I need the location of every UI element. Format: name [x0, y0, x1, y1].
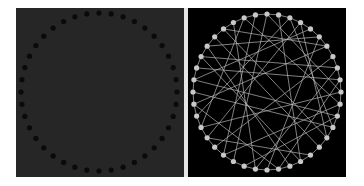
graph-node — [171, 114, 176, 119]
graph-node — [132, 19, 137, 24]
graph-node — [41, 145, 46, 150]
graph-node — [298, 159, 303, 164]
graph-node — [27, 54, 32, 59]
graph-node — [287, 164, 292, 169]
graph-node — [264, 11, 269, 16]
graph-node — [51, 25, 56, 30]
graph-node — [166, 54, 171, 59]
graph-node — [308, 26, 313, 31]
graph-node — [337, 102, 342, 107]
graph-node — [205, 135, 210, 140]
chord-edge — [255, 68, 337, 169]
left-circular-graph — [16, 8, 184, 177]
graph-node — [72, 165, 77, 170]
graph-node — [191, 102, 196, 107]
graph-node — [276, 12, 281, 17]
graph-node — [221, 26, 226, 31]
graph-node — [205, 44, 210, 49]
graph-node — [160, 43, 165, 48]
graph-node — [330, 125, 335, 130]
graph-node — [335, 65, 340, 70]
graph-node — [61, 19, 66, 24]
graph-node — [287, 15, 292, 20]
graph-node — [242, 15, 247, 20]
graph-node — [96, 10, 101, 15]
graph-node — [96, 168, 101, 173]
graph-node — [72, 14, 77, 19]
right-circular-graph — [188, 8, 346, 177]
graph-node — [152, 34, 157, 39]
graph-node — [22, 114, 27, 119]
graph-node — [171, 65, 176, 70]
graph-node — [121, 14, 126, 19]
graph-node — [324, 135, 329, 140]
graph-node — [109, 11, 114, 16]
graph-node — [132, 160, 137, 165]
graph-node — [84, 11, 89, 16]
graph-node — [253, 166, 258, 171]
graph-node — [253, 12, 258, 17]
graph-node — [84, 167, 89, 172]
graph-node — [317, 145, 322, 150]
graph-node — [41, 34, 46, 39]
graph-node — [142, 153, 147, 158]
graph-node — [308, 153, 313, 158]
graph-node — [212, 34, 217, 39]
graph-node — [174, 89, 179, 94]
graph-node — [337, 77, 342, 82]
graph-node — [18, 89, 23, 94]
graph-node — [194, 65, 199, 70]
graph-node — [22, 65, 27, 70]
chord-edge — [290, 18, 333, 128]
graph-node — [33, 43, 38, 48]
chord-edge — [267, 14, 341, 92]
graph-node — [19, 77, 24, 82]
chord-edge — [207, 138, 310, 155]
graph-node — [298, 20, 303, 25]
graph-node — [191, 77, 196, 82]
graph-node — [27, 125, 32, 130]
graph-node — [231, 159, 236, 164]
chord-edge — [244, 116, 337, 166]
graph-node — [173, 77, 178, 82]
graph-node — [198, 125, 203, 130]
graph-node — [317, 34, 322, 39]
graph-node — [231, 20, 236, 25]
graph-node — [142, 25, 147, 30]
chord-edge — [201, 92, 341, 127]
graph-node — [324, 44, 329, 49]
graph-node — [190, 89, 195, 94]
graph-node — [194, 114, 199, 119]
graph-node — [166, 125, 171, 130]
graph-node — [338, 89, 343, 94]
graph-node — [173, 102, 178, 107]
graph-node — [160, 136, 165, 141]
graph-node — [212, 145, 217, 150]
graph-node — [221, 153, 226, 158]
graph-node — [276, 166, 281, 171]
chord-edge — [207, 37, 319, 46]
graph-node — [242, 164, 247, 169]
graph-node — [330, 54, 335, 59]
left-graph-panel — [16, 8, 184, 177]
graph-node — [19, 102, 24, 107]
graph-node — [33, 136, 38, 141]
chord-edge — [197, 68, 340, 80]
graph-node — [51, 153, 56, 158]
graph-node — [61, 160, 66, 165]
graph-node — [198, 54, 203, 59]
graph-node — [121, 165, 126, 170]
right-graph-panel — [188, 8, 346, 177]
graph-node — [264, 167, 269, 172]
graph-node — [109, 167, 114, 172]
graph-node — [335, 114, 340, 119]
graph-node — [152, 145, 157, 150]
